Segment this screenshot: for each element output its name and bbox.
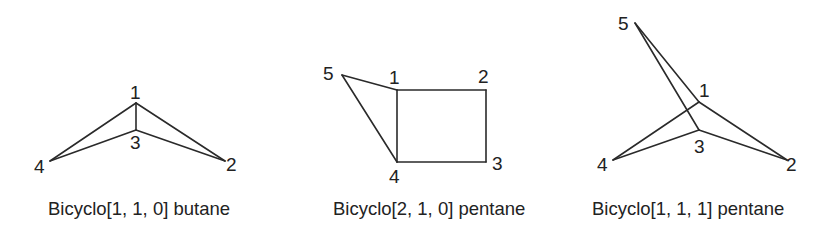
atom-label-4: 4 xyxy=(389,166,400,187)
bond-5-1 xyxy=(635,23,699,102)
caption-bicyclo-1-1-1-pentane: Bicyclo[1, 1, 1] pentane xyxy=(592,198,784,219)
structure-bicyclo-1-1-1-pentane: 1 2 3 4 5 Bicyclo[1, 1, 1] pentane xyxy=(592,13,797,219)
atom-label-4: 4 xyxy=(597,154,608,175)
bond-3-2 xyxy=(136,130,225,161)
bond-1-4 xyxy=(50,103,136,161)
atom-label-1: 1 xyxy=(389,67,400,88)
caption-bicyclo-1-1-0-butane: Bicyclo[1, 1, 0] butane xyxy=(48,198,230,219)
bond-3-4 xyxy=(613,130,699,160)
atom-label-5: 5 xyxy=(618,13,629,34)
atom-label-2: 2 xyxy=(786,154,797,175)
bond-3-4 xyxy=(50,130,136,161)
atom-label-4: 4 xyxy=(34,156,45,177)
atom-label-1: 1 xyxy=(699,80,710,101)
bond-1-2 xyxy=(136,103,225,161)
bond-3-2 xyxy=(699,130,787,160)
bond-1-2 xyxy=(699,102,787,160)
atom-label-2: 2 xyxy=(478,66,489,87)
structure-bicyclo-2-1-0-pentane: 1 2 3 4 5 Bicyclo[2, 1, 0] pentane xyxy=(323,63,525,219)
bond-5-3 xyxy=(635,23,699,130)
atom-label-3: 3 xyxy=(694,136,705,157)
bond-1-4 xyxy=(613,102,699,160)
atom-label-2: 2 xyxy=(226,154,237,175)
atom-label-5: 5 xyxy=(323,63,334,84)
atom-label-3: 3 xyxy=(130,132,141,153)
structure-bicyclo-1-1-0-butane: 1 2 3 4 Bicyclo[1, 1, 0] butane xyxy=(34,82,237,219)
bicyclic-compounds-figure: 1 2 3 4 Bicyclo[1, 1, 0] butane 1 2 3 4 … xyxy=(0,0,839,232)
caption-bicyclo-2-1-0-pentane: Bicyclo[2, 1, 0] pentane xyxy=(333,198,525,219)
atom-label-3: 3 xyxy=(492,153,503,174)
atom-label-1: 1 xyxy=(130,82,141,103)
